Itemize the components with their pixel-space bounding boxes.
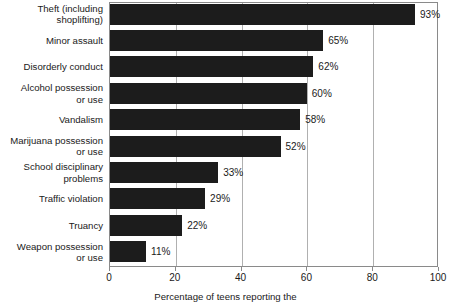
x-tick-label: 20: [155, 272, 195, 284]
x-tick-mark: [372, 267, 373, 271]
bar-row: School disciplinary problems33%: [0, 162, 451, 188]
bar-row: Vandalism58%: [0, 109, 451, 135]
bar-value-label: 58%: [305, 109, 325, 130]
bar: [110, 109, 300, 130]
category-label: Theft (including shoplifting): [0, 3, 103, 26]
bar: [110, 30, 323, 51]
x-tick-mark: [241, 267, 242, 271]
category-label: Vandalism: [0, 114, 103, 125]
bar: [110, 188, 205, 209]
bar: [110, 241, 146, 262]
bar-value-label: 33%: [223, 162, 243, 183]
bar: [110, 215, 182, 236]
bar-row: Traffic violation29%: [0, 188, 451, 214]
bar: [110, 4, 415, 25]
x-tick-mark: [109, 267, 110, 271]
category-label: Weapon possession or use: [0, 241, 103, 264]
bar-row: Disorderly conduct62%: [0, 56, 451, 82]
bar-row: Alcohol possession or use60%: [0, 83, 451, 109]
bar-row: Marijuana possession or use52%: [0, 136, 451, 162]
bar-value-label: 22%: [187, 215, 207, 236]
category-label: Traffic violation: [0, 193, 103, 204]
x-axis-title: Percentage of teens reporting the: [0, 291, 451, 303]
bar-row: Theft (including shoplifting)93%: [0, 4, 451, 30]
x-tick-label: 80: [352, 272, 392, 284]
bar-value-label: 52%: [286, 136, 306, 157]
bar-value-label: 29%: [210, 188, 230, 209]
category-label: Marijuana possession or use: [0, 135, 103, 158]
x-tick-mark: [438, 267, 439, 271]
x-tick-mark: [175, 267, 176, 271]
bar: [110, 162, 218, 183]
x-tick-mark: [306, 267, 307, 271]
category-label: Truancy: [0, 220, 103, 231]
bar-value-label: 93%: [420, 4, 440, 25]
bar-rows: Theft (including shoplifting)93%Minor as…: [0, 0, 451, 269]
category-label: School disciplinary problems: [0, 161, 103, 184]
bar-row: Truancy22%: [0, 215, 451, 241]
bar-chart: Theft (including shoplifting)93%Minor as…: [0, 0, 451, 304]
category-label: Disorderly conduct: [0, 61, 103, 72]
bar-value-label: 65%: [328, 30, 348, 51]
bar: [110, 83, 307, 104]
bar: [110, 56, 313, 77]
category-label: Alcohol possession or use: [0, 82, 103, 105]
x-tick-label: 0: [89, 272, 129, 284]
x-tick-label: 40: [221, 272, 261, 284]
category-label: Minor assault: [0, 35, 103, 46]
x-tick-label: 100: [418, 272, 451, 284]
bar-value-label: 60%: [312, 83, 332, 104]
bar: [110, 136, 281, 157]
bar-row: Weapon possession or use11%: [0, 241, 451, 267]
bar-value-label: 62%: [318, 56, 338, 77]
bar-value-label: 11%: [151, 241, 170, 262]
bar-row: Minor assault65%: [0, 30, 451, 56]
x-tick-label: 60: [286, 272, 326, 284]
